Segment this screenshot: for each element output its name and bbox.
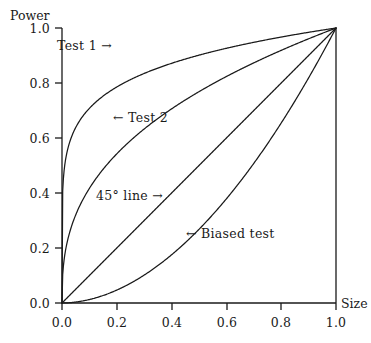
y-tick-0-2: 0.2 bbox=[12, 241, 50, 256]
y-tick-1-0: 1.0 bbox=[12, 21, 50, 36]
annotation-test-2: ← Test 2 bbox=[113, 110, 168, 125]
x-axis-ticks bbox=[62, 303, 336, 310]
data-curves bbox=[62, 28, 336, 303]
curve-45-line bbox=[62, 28, 336, 303]
y-tick-0-8: 0.8 bbox=[12, 76, 50, 91]
annotation-test-1: Test 1 → bbox=[57, 38, 112, 53]
x-tick-0-0: 0.0 bbox=[49, 315, 75, 330]
y-axis-ticks bbox=[55, 28, 62, 303]
x-tick-0-6: 0.6 bbox=[214, 315, 240, 330]
plot-area bbox=[0, 0, 371, 343]
x-tick-1-0: 1.0 bbox=[323, 315, 349, 330]
y-tick-0-0: 0.0 bbox=[12, 296, 50, 311]
figure-canvas: Power Size 1.0 0.8 0.6 0.4 0.2 0.0 0.0 0… bbox=[0, 0, 371, 343]
x-tick-0-4: 0.4 bbox=[159, 315, 185, 330]
annotation-45-line: 45° line → bbox=[96, 188, 163, 203]
y-tick-0-6: 0.6 bbox=[12, 131, 50, 146]
y-tick-0-4: 0.4 bbox=[12, 186, 50, 201]
x-tick-0-8: 0.8 bbox=[268, 315, 294, 330]
annotation-biased-test: ← Biased test bbox=[186, 226, 275, 241]
x-tick-0-2: 0.2 bbox=[104, 315, 130, 330]
x-axis-title: Size bbox=[341, 296, 368, 311]
